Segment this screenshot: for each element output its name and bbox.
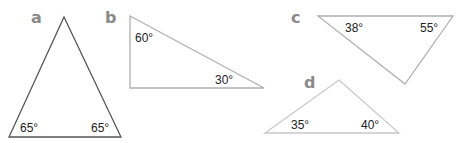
triangle-c-angle-left: 38° — [345, 21, 363, 35]
triangle-b-shape — [130, 16, 264, 88]
triangles-diagram: a 65° 65° b 60° 30° c 38° 55° d 35° 40° — [0, 0, 460, 143]
triangle-c-angle-right: 55° — [420, 21, 438, 35]
triangle-b-label: b — [105, 8, 116, 27]
triangle-d-label: d — [304, 73, 315, 92]
triangle-d-angle-right: 40° — [361, 118, 379, 132]
triangle-a-label: a — [31, 8, 42, 27]
triangle-a-angle-right: 65° — [91, 121, 109, 135]
triangle-d: d 35° 40° — [265, 73, 399, 133]
triangle-a-shape — [9, 17, 121, 137]
triangle-b-angle-right: 30° — [215, 73, 233, 87]
triangle-a: a 65° 65° — [9, 8, 121, 137]
triangle-c-label: c — [291, 8, 300, 27]
triangle-a-angle-left: 65° — [20, 121, 38, 135]
triangle-d-angle-left: 35° — [291, 118, 309, 132]
triangle-b: b 60° 30° — [105, 8, 264, 88]
triangle-b-angle-top: 60° — [135, 31, 153, 45]
